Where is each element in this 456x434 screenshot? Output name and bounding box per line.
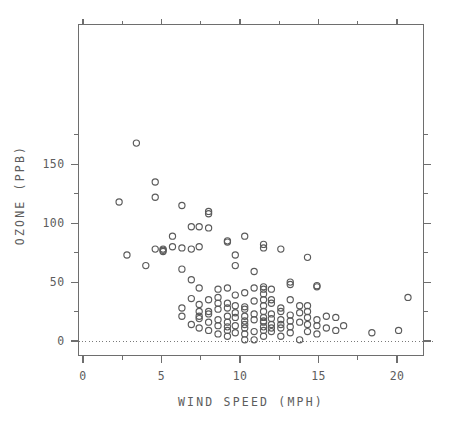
data-point <box>304 308 310 314</box>
data-point <box>297 319 303 325</box>
data-point <box>251 298 257 304</box>
data-point <box>224 285 230 291</box>
data-point <box>251 328 257 334</box>
scatter-plot-figure: 05101520 050100150 WIND SPEED (MPH) OZON… <box>0 0 456 434</box>
plot-canvas: 05101520 050100150 WIND SPEED (MPH) OZON… <box>0 0 456 434</box>
x-axis-tick-labels: 05101520 <box>79 369 404 383</box>
plot-frame <box>79 25 424 356</box>
data-point <box>304 303 310 309</box>
data-point <box>215 331 221 337</box>
data-point <box>242 337 248 343</box>
data-point-group <box>116 140 411 343</box>
data-point <box>196 285 202 291</box>
data-point <box>188 321 194 327</box>
data-point <box>260 297 266 303</box>
data-point <box>179 245 185 251</box>
y-axis-tick-labels: 050100150 <box>43 157 65 348</box>
data-point <box>206 225 212 231</box>
x-tick-label: 5 <box>158 369 165 383</box>
data-point <box>188 246 194 252</box>
data-point <box>260 303 266 309</box>
data-point <box>314 323 320 329</box>
y-tick-label: 100 <box>43 216 65 230</box>
data-point <box>215 317 221 323</box>
data-point <box>188 295 194 301</box>
data-point <box>196 325 202 331</box>
data-point <box>287 324 293 330</box>
data-point <box>251 337 257 343</box>
data-point <box>232 323 238 329</box>
data-point <box>304 314 310 320</box>
data-point <box>333 327 339 333</box>
data-point <box>169 233 175 239</box>
y-tick-label: 50 <box>50 275 65 289</box>
data-point <box>278 246 284 252</box>
data-point <box>179 305 185 311</box>
data-point <box>215 294 221 300</box>
y-tick-label: 0 <box>57 334 64 348</box>
data-point <box>232 330 238 336</box>
data-point <box>333 314 339 320</box>
data-point <box>297 310 303 316</box>
x-axis-title: WIND SPEED (MPH) <box>178 395 324 409</box>
data-point <box>242 290 248 296</box>
data-point <box>287 318 293 324</box>
data-point <box>242 331 248 337</box>
data-point <box>251 317 257 323</box>
data-point <box>152 194 158 200</box>
data-point <box>314 317 320 323</box>
data-point <box>395 327 401 333</box>
data-point <box>323 313 329 319</box>
data-point <box>206 297 212 303</box>
data-point <box>179 266 185 272</box>
data-point <box>124 252 130 258</box>
data-point <box>287 297 293 303</box>
data-point <box>232 303 238 309</box>
data-point <box>297 303 303 309</box>
data-point <box>369 330 375 336</box>
data-point <box>232 252 238 258</box>
y-axis-title: OZONE (PPB) <box>13 145 27 245</box>
data-point <box>116 199 122 205</box>
data-point <box>224 333 230 339</box>
x-tick-label: 10 <box>233 369 248 383</box>
data-point <box>260 333 266 339</box>
data-point <box>188 277 194 283</box>
data-point <box>251 311 257 317</box>
data-point <box>152 179 158 185</box>
data-point <box>196 224 202 230</box>
data-point <box>224 313 230 319</box>
data-point <box>169 244 175 250</box>
data-point <box>206 327 212 333</box>
y-tick-label: 150 <box>43 157 65 171</box>
data-point <box>188 224 194 230</box>
x-tick-label: 15 <box>311 369 326 383</box>
data-point <box>179 202 185 208</box>
data-point <box>260 308 266 314</box>
data-point <box>242 233 248 239</box>
data-point <box>297 337 303 343</box>
data-point <box>215 323 221 329</box>
data-point <box>215 286 221 292</box>
data-point <box>232 263 238 269</box>
data-point <box>304 328 310 334</box>
x-axis-ticks <box>83 19 397 363</box>
data-point <box>196 244 202 250</box>
data-point <box>152 246 158 252</box>
data-point <box>232 292 238 298</box>
data-point <box>314 331 320 337</box>
data-point <box>341 323 347 329</box>
x-tick-label: 0 <box>79 369 86 383</box>
data-point <box>133 140 139 146</box>
data-point <box>268 286 274 292</box>
data-point <box>143 263 149 269</box>
data-point <box>196 301 202 307</box>
data-point <box>304 254 310 260</box>
data-point <box>251 285 257 291</box>
data-point <box>215 300 221 306</box>
data-point <box>251 268 257 274</box>
x-tick-label: 20 <box>390 369 405 383</box>
y-axis-ticks <box>71 135 431 341</box>
data-point <box>287 330 293 336</box>
data-point <box>323 325 329 331</box>
